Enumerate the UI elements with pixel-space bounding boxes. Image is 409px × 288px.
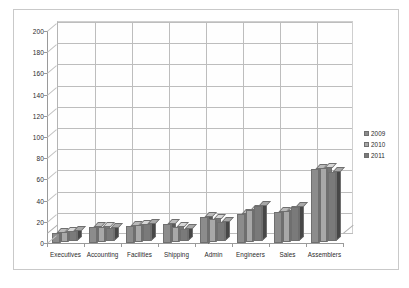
x-axis-tick-mark — [269, 243, 270, 247]
bar-2009-engineers — [237, 214, 245, 243]
bar-2009-facilities — [126, 226, 134, 243]
bar-2011-shipping — [180, 229, 188, 241]
bar-2009-assemblers — [311, 169, 319, 243]
bar-front-face — [135, 225, 143, 242]
legend-swatch-icon — [364, 142, 369, 147]
bar-2011-facilities — [143, 224, 151, 241]
legend-label: 2010 — [371, 141, 385, 148]
bar-2011-assemblers — [328, 172, 336, 241]
legend-swatch-icon — [364, 131, 369, 136]
bar-2009-shipping — [163, 224, 171, 243]
bar-front-face — [311, 169, 319, 243]
x-axis-label-admin: Admin — [195, 251, 232, 259]
bar-2010-sales — [283, 211, 291, 242]
bar-front-face — [237, 214, 245, 243]
bar-front-face — [143, 224, 151, 241]
x-axis-label-facilities: Facilities — [121, 251, 158, 259]
chart-legend: 200920102011 — [364, 128, 398, 161]
x-axis-label-shipping: Shipping — [158, 251, 195, 259]
bar-2011-sales — [291, 207, 299, 241]
bar-2009-sales — [274, 212, 282, 243]
legend-item-2009: 2009 — [364, 128, 398, 139]
x-axis-tick-mark — [343, 243, 344, 247]
bar-front-face — [69, 231, 77, 241]
x-axis-tick-mark — [195, 243, 196, 247]
bar-2011-engineers — [254, 206, 262, 241]
x-axis-label-assemblers: Assemblers — [306, 251, 343, 259]
bar-2010-facilities — [135, 225, 143, 242]
bar-front-face — [172, 227, 180, 242]
bar-side-face — [336, 168, 341, 241]
legend-label: 2011 — [371, 152, 385, 159]
bar-front-face — [291, 207, 299, 241]
bar-side-face — [262, 202, 267, 241]
bar-front-face — [106, 228, 114, 241]
x-axis-tick-mark — [121, 243, 122, 247]
bar-front-face — [89, 227, 97, 243]
bar-front-face — [163, 224, 171, 243]
bar-front-face — [283, 211, 291, 242]
x-axis-tick-mark — [158, 243, 159, 247]
bar-2011-accounting — [106, 228, 114, 241]
chart-screenshot: 020406080100120140160180200 ExecutivesAc… — [0, 0, 409, 288]
bar-front-face — [217, 222, 225, 241]
x-axis-label-engineers: Engineers — [232, 251, 269, 259]
legend-swatch-icon — [364, 153, 369, 158]
bar-2010-executives — [61, 232, 69, 242]
bar-front-face — [61, 232, 69, 242]
bar-2011-executives — [69, 231, 77, 241]
bar-front-face — [246, 210, 254, 242]
x-axis-tick-mark — [47, 243, 48, 247]
x-axis-label-accounting: Accounting — [84, 251, 121, 259]
bar-front-face — [98, 227, 106, 242]
bar-2009-accounting — [89, 227, 97, 243]
bar-front-face — [320, 168, 328, 242]
bar-2010-admin — [209, 219, 217, 242]
bar-2011-admin — [217, 222, 225, 241]
x-axis-tick-mark — [306, 243, 307, 247]
bar-2010-engineers — [246, 210, 254, 242]
bar-front-face — [209, 219, 217, 242]
bar-2010-assemblers — [320, 168, 328, 242]
x-axis-label-executives: Executives — [47, 251, 84, 259]
bar-side-face — [299, 203, 304, 241]
x-axis-tick-mark — [84, 243, 85, 247]
bar-front-face — [180, 229, 188, 241]
legend-item-2011: 2011 — [364, 150, 398, 161]
bar-front-face — [126, 226, 134, 243]
bar-front-face — [254, 206, 262, 241]
plot-area: 020406080100120140160180200 ExecutivesAc… — [14, 10, 398, 269]
bars-layer — [14, 10, 398, 269]
bar-front-face — [200, 217, 208, 244]
legend-label: 2009 — [371, 130, 385, 137]
legend-item-2010: 2010 — [364, 139, 398, 150]
bar-2010-accounting — [98, 227, 106, 242]
x-axis-label-sales: Sales — [269, 251, 306, 259]
bar-front-face — [328, 172, 336, 241]
chart-frame: 020406080100120140160180200 ExecutivesAc… — [13, 9, 399, 270]
x-axis-tick-mark — [232, 243, 233, 247]
bar-2010-shipping — [172, 227, 180, 242]
bar-front-face — [274, 212, 282, 243]
bar-2009-admin — [200, 217, 208, 244]
